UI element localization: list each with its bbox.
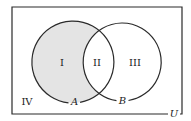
region-II-label: II	[93, 57, 101, 68]
region-IV-label: IV	[21, 96, 33, 107]
region-III-label: III	[129, 57, 141, 68]
venn-diagram: I II III IV A B U	[0, 0, 191, 121]
universe-label: U	[170, 108, 179, 119]
set-B-label: B	[118, 95, 126, 106]
region-I-label: I	[60, 57, 64, 68]
set-A-label: A	[70, 96, 78, 107]
